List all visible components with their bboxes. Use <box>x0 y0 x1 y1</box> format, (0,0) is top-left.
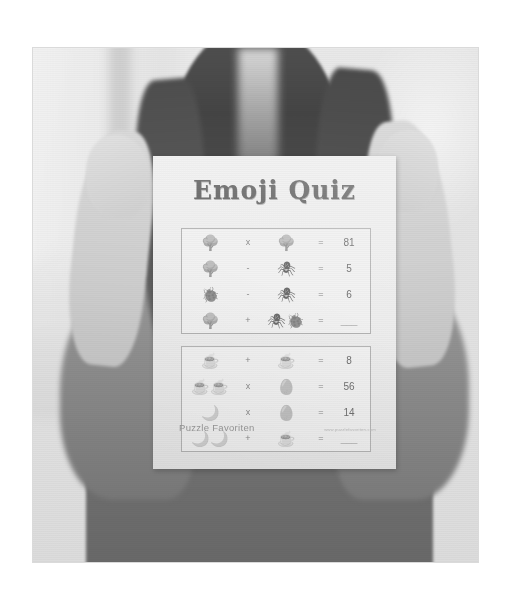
operand-right-emoji: 🕷 <box>264 287 308 302</box>
answer-value: 8 <box>334 355 364 366</box>
answer-blank[interactable]: ___ <box>334 433 364 444</box>
equals-symbol: = <box>308 289 334 299</box>
photograph: Emoji Quiz 🌳 x 🌳 = 81 🌳 - 🕷 = 5 � <box>33 48 478 562</box>
equals-symbol: = <box>308 355 334 365</box>
answer-value: 5 <box>334 263 364 274</box>
table-row: 🌳 x 🌳 = 81 <box>182 229 370 255</box>
operand-left-emoji: 🐞 <box>188 287 232 302</box>
table-row: 🌳 - 🕷 = 5 <box>182 255 370 281</box>
worksheet-title: Emoji Quiz <box>153 175 396 205</box>
operator-symbol: x <box>232 407 264 417</box>
operator-symbol: - <box>232 289 264 299</box>
operator-symbol: x <box>232 381 264 391</box>
operand-left-emoji: 🌙 <box>188 405 232 420</box>
answer-value: 56 <box>334 381 364 392</box>
operand-left-emoji: 🌳 <box>188 313 232 328</box>
operator-symbol: - <box>232 263 264 273</box>
operand-right-emoji: 🕷 <box>264 261 308 276</box>
worksheet-paper: Emoji Quiz 🌳 x 🌳 = 81 🌳 - 🕷 = 5 � <box>153 156 396 469</box>
equals-symbol: = <box>308 381 334 391</box>
answer-value: 6 <box>334 289 364 300</box>
screenshot-root: Emoji Quiz 🌳 x 🌳 = 81 🌳 - 🕷 = 5 � <box>0 0 513 595</box>
worksheet-footer: Puzzle Favoriten www.puzzlefavoriten.com <box>179 422 376 433</box>
footer-brand-text: Puzzle Favoriten <box>179 422 255 433</box>
puzzle-table-2: ☕ + ☕ = 8 ☕☕ x 🥚 = 56 🌙 x 🥚 = <box>181 346 371 452</box>
answer-blank[interactable]: ___ <box>334 315 364 326</box>
operand-left-emoji: ☕☕ <box>188 379 232 394</box>
puzzle-table-1: 🌳 x 🌳 = 81 🌳 - 🕷 = 5 🐞 - 🕷 = <box>181 228 371 334</box>
operand-left-emoji: 🌳 <box>188 261 232 276</box>
operand-right-emoji: 🌳 <box>264 235 308 250</box>
equals-symbol: = <box>308 263 334 273</box>
table-row: ☕☕ x 🥚 = 56 <box>182 373 370 399</box>
person-hand-left <box>86 135 148 217</box>
operand-right-emoji: 🥚 <box>264 405 308 420</box>
operand-right-emoji: ☕ <box>264 353 308 368</box>
equals-symbol: = <box>308 433 334 443</box>
operand-right-emoji: 🥚 <box>264 379 308 394</box>
table-row: ☕ + ☕ = 8 <box>182 347 370 373</box>
answer-value: 81 <box>334 237 364 248</box>
operand-left-emoji: ☕ <box>188 353 232 368</box>
operand-right-emoji: 🕷🐞 <box>264 313 308 328</box>
operator-symbol: + <box>232 315 264 325</box>
footer-url-text: www.puzzlefavoriten.com <box>324 427 376 432</box>
operator-symbol: x <box>232 237 264 247</box>
operand-left-emoji: 🌳 <box>188 235 232 250</box>
equals-symbol: = <box>308 237 334 247</box>
answer-value: 14 <box>334 407 364 418</box>
table-row: 🐞 - 🕷 = 6 <box>182 281 370 307</box>
operator-symbol: + <box>232 433 264 443</box>
equals-symbol: = <box>308 315 334 325</box>
equals-symbol: = <box>308 407 334 417</box>
operator-symbol: + <box>232 355 264 365</box>
table-row: 🌳 + 🕷🐞 = ___ <box>182 307 370 333</box>
